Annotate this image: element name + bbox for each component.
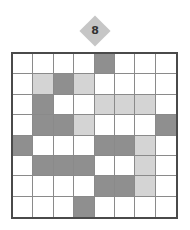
grid-cell[interactable] xyxy=(135,54,155,74)
grid-cell[interactable] xyxy=(33,95,53,115)
grid-cell[interactable] xyxy=(13,156,33,176)
grid-cell[interactable] xyxy=(13,136,33,156)
level-number: 8 xyxy=(80,16,110,46)
grid-cell[interactable] xyxy=(95,115,115,135)
grid-cell[interactable] xyxy=(156,136,176,156)
grid-cell[interactable] xyxy=(156,197,176,217)
grid-cell[interactable] xyxy=(135,74,155,94)
grid-cell[interactable] xyxy=(54,156,74,176)
grid-cell[interactable] xyxy=(74,197,94,217)
grid-cell[interactable] xyxy=(13,95,33,115)
grid-cell[interactable] xyxy=(54,136,74,156)
grid-cell[interactable] xyxy=(33,74,53,94)
grid-cell[interactable] xyxy=(115,95,135,115)
grid-cell[interactable] xyxy=(74,95,94,115)
grid-cell[interactable] xyxy=(135,176,155,196)
level-badge: 8 xyxy=(80,16,110,46)
grid-cell[interactable] xyxy=(135,156,155,176)
grid-cell[interactable] xyxy=(54,197,74,217)
grid-cell[interactable] xyxy=(115,136,135,156)
grid-cell[interactable] xyxy=(74,54,94,74)
grid-cell[interactable] xyxy=(156,115,176,135)
grid-cell[interactable] xyxy=(74,176,94,196)
grid-cell[interactable] xyxy=(13,176,33,196)
grid-cell[interactable] xyxy=(54,74,74,94)
grid-cell[interactable] xyxy=(115,54,135,74)
grid-cell[interactable] xyxy=(33,136,53,156)
grid-cell[interactable] xyxy=(135,95,155,115)
grid-cell[interactable] xyxy=(13,74,33,94)
grid-cell[interactable] xyxy=(74,115,94,135)
grid-cell[interactable] xyxy=(115,176,135,196)
grid-cell[interactable] xyxy=(13,197,33,217)
grid-cell[interactable] xyxy=(95,176,115,196)
grid-cell[interactable] xyxy=(135,136,155,156)
grid-cell[interactable] xyxy=(33,176,53,196)
grid-cell[interactable] xyxy=(95,136,115,156)
grid-cell[interactable] xyxy=(95,197,115,217)
grid-cell[interactable] xyxy=(13,115,33,135)
grid-cell[interactable] xyxy=(54,115,74,135)
grid-cell[interactable] xyxy=(156,156,176,176)
grid-cell[interactable] xyxy=(156,54,176,74)
grid-cell[interactable] xyxy=(33,54,53,74)
grid-cell[interactable] xyxy=(135,197,155,217)
grid-cell[interactable] xyxy=(156,176,176,196)
grid-cell[interactable] xyxy=(95,54,115,74)
grid-cell[interactable] xyxy=(156,95,176,115)
grid-cell[interactable] xyxy=(33,115,53,135)
grid-cell[interactable] xyxy=(74,156,94,176)
grid-cell[interactable] xyxy=(33,197,53,217)
puzzle-grid xyxy=(11,52,178,219)
grid-cell[interactable] xyxy=(74,136,94,156)
grid-cell[interactable] xyxy=(95,95,115,115)
grid-cell[interactable] xyxy=(156,74,176,94)
grid-cell[interactable] xyxy=(115,197,135,217)
grid-cell[interactable] xyxy=(54,54,74,74)
grid-cell[interactable] xyxy=(115,115,135,135)
grid-cell[interactable] xyxy=(54,95,74,115)
grid-cell[interactable] xyxy=(115,156,135,176)
grid-cell[interactable] xyxy=(95,74,115,94)
grid-cell[interactable] xyxy=(74,74,94,94)
grid-cell[interactable] xyxy=(13,54,33,74)
grid-cell[interactable] xyxy=(54,176,74,196)
grid-cell[interactable] xyxy=(33,156,53,176)
grid-cell[interactable] xyxy=(115,74,135,94)
grid-cell[interactable] xyxy=(95,156,115,176)
grid-cell[interactable] xyxy=(135,115,155,135)
